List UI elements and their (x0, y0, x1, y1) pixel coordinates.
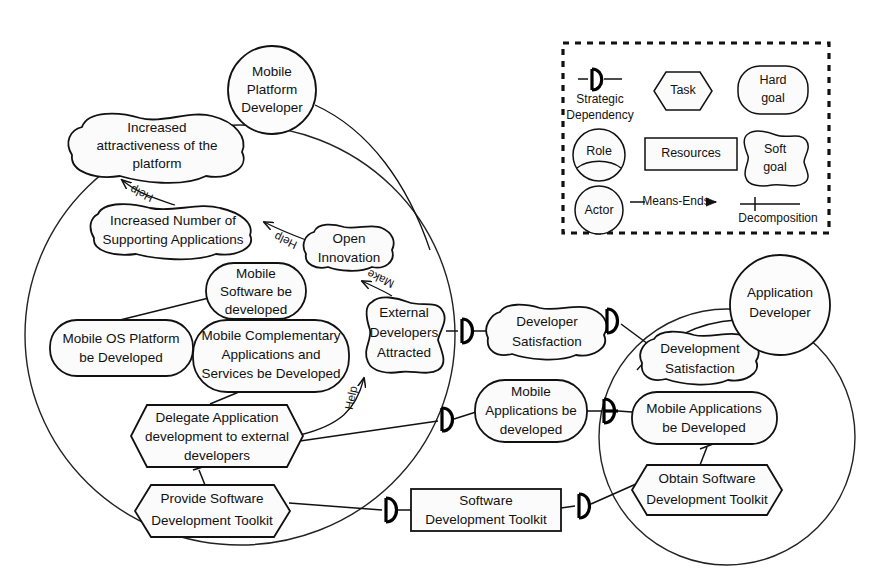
node-mobile-applications-be-developed[interactable]: Mobile Applications be Developed (632, 392, 777, 444)
legend-item-soft-goal: Soft goal (744, 131, 808, 186)
node-label-line-0: Mobile OS Platform (62, 331, 179, 346)
node-label-line-0: External (379, 305, 429, 320)
node-label-line-0: Increased Number of (110, 213, 236, 228)
legend-label-hard-1: goal (761, 91, 785, 105)
dependency-glyph-3 (442, 408, 453, 431)
node-label-line-0: Mobile (236, 266, 276, 281)
node-mobile-os-platform-be-developed[interactable]: Mobile OS Platform be Developed (50, 320, 193, 376)
decomposition-link-obtain-toolkit (700, 447, 707, 465)
node-label-line-2: Services be Developed (202, 366, 341, 381)
legend-item-decomposition: Decomposition (738, 197, 817, 225)
node-label-line-1: Development Toolkit (425, 512, 547, 527)
legend-item-actor: Actor (575, 186, 623, 234)
node-label-line-2: Attracted (377, 345, 431, 360)
contribution-label-help-1: Help (128, 183, 155, 204)
node-label-line-0: Development (660, 341, 740, 356)
node-label-line-1: Supporting Applications (102, 232, 243, 247)
node-development-satisfaction[interactable]: Development Satisfaction (640, 332, 759, 385)
node-mobile-software-be-developed[interactable]: Mobile Software be developed (206, 263, 306, 319)
node-label-line-1: development to external (145, 429, 289, 444)
legend-panel: Strategic Dependency Task Hard goal Role… (563, 43, 829, 234)
legend-label-soft-1: goal (763, 160, 787, 174)
istar-canvas: Increased attractiveness of the platform… (0, 0, 875, 577)
legend-label-hard-0: Hard (759, 73, 786, 87)
node-label-line-1: Software be (220, 284, 292, 299)
contribution-label-help-2: Help (272, 230, 299, 251)
actor-mobile-platform-developer[interactable]: Mobile Platform Developer (228, 46, 316, 134)
legend-item-strategic-dependency: Strategic Dependency (566, 69, 633, 122)
legend-item-task: Task (654, 72, 712, 110)
node-label-line-0: Software (459, 493, 512, 508)
node-label-line-1: Development Toolkit (151, 513, 273, 528)
legend-label-line-0: Strategic (576, 92, 623, 106)
legend-item-means-ends: Means-Ends (630, 194, 716, 208)
node-open-innovation[interactable]: Open Innovation (304, 225, 394, 271)
legend-item-hard-goal: Hard goal (738, 66, 808, 114)
node-delegate-application-development[interactable]: Delegate Application development to exte… (131, 405, 303, 467)
node-label-line-0: Delegate Application (155, 410, 278, 425)
node-label-line-1: Satisfaction (512, 334, 582, 349)
dependency-glyph-5 (386, 498, 397, 522)
actor-label-line-2: Developer (241, 100, 303, 115)
dependency-line-3a (300, 421, 438, 441)
legend-label-task: Task (670, 83, 696, 97)
node-label-line-0: Obtain Software (659, 471, 756, 486)
node-software-development-toolkit[interactable]: Software Development Toolkit (411, 489, 561, 531)
actor-label-line-1: Platform (247, 82, 297, 97)
dependency-line-6a (561, 506, 575, 508)
node-label-line-0: Open (332, 231, 365, 246)
dependency-line-4b (618, 411, 632, 412)
actor-application-developer[interactable]: Application Developer (730, 255, 830, 355)
actor-label-line-1: Developer (749, 305, 811, 320)
node-increased-attractiveness[interactable]: Increased attractiveness of the platform (68, 114, 243, 183)
node-label-line-1: be Developed (662, 420, 745, 435)
node-label-line-0: Mobile Complementary (202, 328, 341, 343)
node-label-line-2: platform (133, 156, 182, 171)
contribution-label-help-3: Help (343, 385, 360, 411)
node-label-line-0: Mobile Applications (646, 401, 762, 416)
dependency-glyph-2 (607, 309, 618, 333)
node-obtain-software-development-toolkit[interactable]: Obtain Software Development Toolkit (632, 465, 782, 515)
dependency-glyph-6 (579, 494, 590, 518)
node-label-line-2: developed (225, 302, 287, 317)
node-provide-software-development-toolkit[interactable]: Provide Software Development Toolkit (135, 485, 290, 537)
node-developer-satisfaction[interactable]: Developer Satisfaction (486, 305, 607, 360)
node-label-line-2: developers (184, 448, 250, 463)
dependency-glyph-1 (462, 319, 473, 343)
node-label-line-0: Developer (516, 314, 578, 329)
dependency-line-2b (621, 324, 648, 344)
dependency-glyph-4 (604, 399, 618, 423)
node-label-line-1: Innovation (318, 250, 380, 265)
node-mobile-applications-be-developed-dep[interactable]: Mobile Applications be developed (475, 380, 587, 442)
node-label-line-1: Applications and (221, 347, 320, 362)
legend-label-resources: Resources (661, 146, 721, 160)
node-label-line-1: be Developed (79, 350, 162, 365)
actor-label-line-0: Mobile (252, 64, 292, 79)
legend-label-soft-0: Soft (764, 142, 787, 156)
decomposition-link-provide-toolkit (199, 470, 205, 485)
dependency-line-3b (454, 412, 476, 419)
legend-label-means-ends: Means-Ends (642, 194, 709, 208)
legend-item-resources: Resources (645, 138, 737, 170)
node-mobile-complementary-apps[interactable]: Mobile Complementary Applications and Se… (193, 320, 349, 392)
legend-label-decomposition: Decomposition (738, 211, 817, 225)
node-label-line-2: developed (500, 422, 562, 437)
legend-label-role: Role (586, 144, 612, 158)
legend-softgoal-shape (744, 131, 808, 186)
legend-item-role: Role (573, 129, 625, 181)
node-external-developers-attracted[interactable]: External Developers Attracted (366, 297, 445, 372)
legend-label-line-1: Dependency (566, 108, 633, 122)
hardgoal-shape (50, 320, 193, 376)
istar-diagram: Increased attractiveness of the platform… (0, 0, 875, 577)
node-label-line-0: Increased (127, 120, 186, 135)
actor-label-line-0: Application (747, 285, 813, 300)
contribution-label-make-1: Make (365, 267, 396, 290)
node-label-line-0: Mobile (511, 384, 551, 399)
node-label-line-1: Satisfaction (665, 361, 735, 376)
node-label-line-1: Developers (370, 325, 439, 340)
node-label-line-1: Applications be (485, 403, 577, 418)
node-label-line-1: attractiveness of the (97, 138, 218, 153)
node-label-line-0: Provide Software (161, 491, 264, 506)
node-label-line-1: Development Toolkit (646, 492, 768, 507)
node-increased-number-supporting-apps[interactable]: Increased Number of Supporting Applicati… (91, 204, 252, 259)
